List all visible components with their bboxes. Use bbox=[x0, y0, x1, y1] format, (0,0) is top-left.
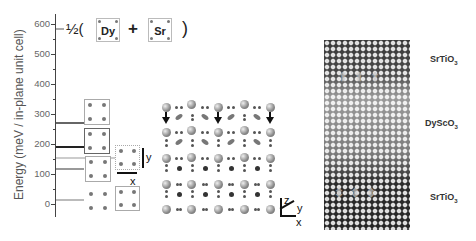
ytick-500: 500 bbox=[26, 48, 50, 59]
atom-small bbox=[175, 157, 178, 160]
atom-large bbox=[162, 180, 171, 189]
atom-small bbox=[243, 144, 246, 147]
atom bbox=[103, 174, 107, 178]
atom-small bbox=[257, 208, 260, 211]
atom-small bbox=[253, 106, 256, 109]
atom-medium bbox=[229, 192, 234, 197]
atom-small bbox=[191, 164, 194, 167]
unit-cell-155 bbox=[115, 145, 140, 170]
atom-small bbox=[175, 106, 178, 109]
dy-label: Dy bbox=[101, 25, 115, 37]
atom-small bbox=[206, 106, 209, 109]
atom-small bbox=[165, 169, 168, 172]
atom bbox=[102, 103, 106, 107]
atom-small bbox=[175, 131, 178, 134]
unit-cell-115 bbox=[85, 156, 111, 182]
y-arrow bbox=[142, 148, 144, 168]
unit-cell-275 bbox=[84, 99, 110, 125]
double-arrow-icon: ⬍ bbox=[334, 186, 344, 200]
atom-medium bbox=[255, 166, 260, 171]
atom-small bbox=[232, 157, 235, 160]
atom-large bbox=[240, 205, 249, 214]
x-axis-arrow bbox=[280, 215, 296, 217]
octahedron bbox=[227, 113, 236, 121]
atom-small bbox=[179, 208, 182, 211]
atom-small bbox=[258, 131, 261, 134]
level-275 bbox=[56, 122, 84, 124]
atom-large bbox=[240, 153, 249, 162]
y-axis-line bbox=[55, 14, 56, 217]
octahedron bbox=[175, 113, 184, 121]
atom bbox=[167, 20, 170, 23]
minor-tick bbox=[53, 99, 55, 100]
atom-large bbox=[266, 154, 275, 163]
atom bbox=[102, 117, 106, 121]
lattice-model bbox=[162, 103, 292, 221]
atom-large bbox=[162, 128, 171, 137]
ytick-0: 0 bbox=[26, 198, 50, 209]
atom bbox=[102, 132, 106, 136]
unit-cell-15-boxed bbox=[115, 186, 140, 211]
major-tick bbox=[51, 84, 55, 85]
down-arrow-icon bbox=[266, 117, 274, 124]
atom bbox=[150, 37, 153, 40]
atom-small bbox=[217, 139, 220, 142]
atom-small bbox=[165, 164, 168, 167]
atom-large bbox=[214, 205, 223, 214]
atom bbox=[115, 20, 118, 23]
atom bbox=[103, 160, 107, 164]
atom-small bbox=[180, 106, 183, 109]
y-label: y bbox=[297, 202, 303, 214]
atom bbox=[132, 149, 136, 153]
atom-small bbox=[257, 183, 260, 186]
atom-medium bbox=[177, 192, 182, 197]
atom-small bbox=[269, 144, 272, 147]
ytick-600: 600 bbox=[26, 18, 50, 29]
level-600 bbox=[56, 28, 64, 30]
atom-large bbox=[266, 180, 275, 189]
octahedron bbox=[253, 138, 262, 146]
atom bbox=[89, 192, 93, 196]
atom-small bbox=[201, 131, 204, 134]
up-arrow-icon: ⬆ bbox=[370, 70, 380, 84]
atom-large bbox=[187, 153, 196, 162]
atom-small bbox=[191, 190, 194, 193]
atom bbox=[102, 146, 106, 150]
atom-small bbox=[201, 157, 204, 160]
atom-large bbox=[214, 154, 223, 163]
atom-small bbox=[180, 157, 183, 160]
atom bbox=[88, 132, 92, 136]
equation-suffix: ) bbox=[182, 18, 188, 39]
x-arrow bbox=[117, 172, 137, 174]
atom-small bbox=[165, 144, 168, 147]
atom bbox=[103, 206, 107, 210]
atom-small bbox=[232, 106, 235, 109]
atom-small bbox=[258, 106, 261, 109]
tem-micrograph: ⬆ ⬆ ⬆ ⬍ ⬍ ⬍ bbox=[324, 40, 410, 230]
unit-cell-190 bbox=[84, 128, 110, 154]
atom-small bbox=[269, 169, 272, 172]
atom-small bbox=[243, 195, 246, 198]
atom-small bbox=[253, 157, 256, 160]
atom bbox=[167, 37, 170, 40]
atom-medium bbox=[177, 166, 182, 171]
z-label: z bbox=[284, 194, 290, 206]
atom-medium bbox=[203, 192, 208, 197]
unit-cell-15-unboxed bbox=[85, 188, 111, 214]
major-tick bbox=[51, 54, 55, 55]
atom-large bbox=[162, 205, 171, 214]
atom bbox=[88, 146, 92, 150]
sr-cell: Sr bbox=[148, 18, 172, 42]
atom-small bbox=[217, 164, 220, 167]
down-arrow-icon bbox=[214, 117, 222, 124]
double-arrow-icon: ⬍ bbox=[366, 186, 376, 200]
atom-small bbox=[217, 169, 220, 172]
plus-sign: + bbox=[128, 19, 138, 39]
atom-medium bbox=[229, 166, 234, 171]
ytick-200: 200 bbox=[26, 138, 50, 149]
layer-label-dysco3: DyScO3 bbox=[425, 118, 458, 130]
atom-small bbox=[269, 164, 272, 167]
atom bbox=[98, 37, 101, 40]
atom-small bbox=[269, 190, 272, 193]
octahedron bbox=[175, 138, 184, 146]
